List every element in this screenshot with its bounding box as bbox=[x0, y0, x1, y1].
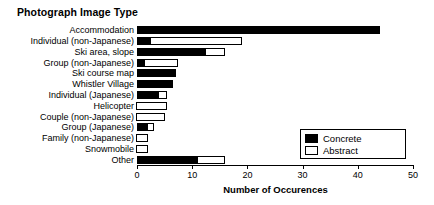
x-axis-tick bbox=[358, 165, 359, 169]
bar-segment-concrete bbox=[137, 156, 198, 164]
category-label: Group (Japanese) bbox=[5, 122, 137, 132]
legend-item-concrete: Concrete bbox=[305, 132, 401, 144]
bar-row bbox=[137, 69, 176, 77]
bar-row bbox=[137, 59, 178, 67]
bar-segment-abstract bbox=[158, 91, 167, 99]
category-label: Individual (non-Japanese) bbox=[5, 36, 137, 46]
bar-segment-abstract bbox=[136, 145, 148, 153]
bar-segment-abstract bbox=[205, 48, 225, 56]
legend-item-abstract: Abstract bbox=[305, 144, 401, 156]
bar-segment-concrete bbox=[137, 69, 176, 77]
category-label: Group (non-Japanese) bbox=[5, 58, 137, 68]
bar-row bbox=[137, 134, 148, 142]
legend-label-concrete: Concrete bbox=[323, 133, 362, 144]
x-axis-tick-label: 50 bbox=[408, 170, 418, 180]
bar-segment-abstract bbox=[147, 123, 154, 131]
bar-segment-concrete bbox=[137, 26, 380, 34]
x-axis-tick-label: 20 bbox=[242, 170, 252, 180]
bar-segment-abstract bbox=[136, 113, 165, 121]
bar-row bbox=[137, 156, 225, 164]
category-label: Helicopter bbox=[5, 101, 137, 111]
legend-label-abstract: Abstract bbox=[323, 145, 358, 156]
bar-row bbox=[137, 102, 167, 110]
legend-swatch-concrete bbox=[305, 134, 318, 143]
category-label: Other bbox=[5, 155, 137, 165]
x-axis-tick-label: 40 bbox=[353, 170, 363, 180]
bar-segment-abstract bbox=[136, 102, 167, 110]
bar-row bbox=[137, 113, 165, 121]
x-axis-tick bbox=[247, 165, 248, 169]
x-axis-tick bbox=[413, 165, 414, 169]
bar-segment-concrete bbox=[137, 48, 206, 56]
category-label: Ski area, slope bbox=[5, 47, 137, 57]
bar-segment-concrete bbox=[137, 91, 159, 99]
category-label: Couple (non-Japanese) bbox=[5, 112, 137, 122]
x-axis-tick-label: 30 bbox=[298, 170, 308, 180]
bar-row bbox=[137, 48, 225, 56]
bar-row bbox=[137, 37, 242, 45]
bar-row bbox=[137, 91, 167, 99]
bar-segment-abstract bbox=[197, 156, 226, 164]
x-axis-tick bbox=[192, 165, 193, 169]
category-label: Family (non-Japanese) bbox=[5, 133, 137, 143]
legend-swatch-abstract bbox=[305, 146, 318, 155]
bar-row bbox=[137, 80, 173, 88]
bar-segment-abstract bbox=[150, 37, 242, 45]
category-label: Whistler Village bbox=[5, 79, 137, 89]
category-label: Ski course map bbox=[5, 68, 137, 78]
bar-segment-abstract bbox=[144, 59, 178, 67]
bar-row bbox=[137, 26, 380, 34]
x-axis-tick-label: 10 bbox=[187, 170, 197, 180]
chart-legend: Concrete Abstract bbox=[300, 129, 406, 159]
bar-segment-concrete bbox=[137, 37, 151, 45]
x-axis-line bbox=[137, 165, 414, 166]
bar-segment-concrete bbox=[137, 80, 173, 88]
x-axis-tick-label: 0 bbox=[134, 170, 139, 180]
x-axis-label: Number of Occurences bbox=[137, 184, 414, 195]
page-title: Photograph Image Type bbox=[17, 6, 138, 18]
bar-segment-abstract bbox=[136, 134, 148, 142]
category-label: Snowmobile bbox=[5, 144, 137, 154]
bar-row bbox=[137, 123, 154, 131]
bar-row bbox=[137, 145, 148, 153]
x-axis-tick bbox=[303, 165, 304, 169]
bar-chart: Photograph Image Type Number of Occurenc… bbox=[0, 0, 434, 205]
category-label: Accommodation bbox=[5, 25, 137, 35]
x-axis-tick bbox=[137, 165, 138, 169]
category-label: Individual (Japanese) bbox=[5, 90, 137, 100]
